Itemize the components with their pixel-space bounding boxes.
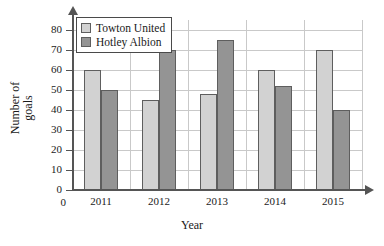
y-axis-tick-mark (66, 90, 73, 91)
bar-2014-series-1 (275, 86, 292, 190)
y-axis-title: Number of goals (9, 53, 35, 163)
bar-2013-series-1 (217, 40, 234, 190)
x-axis-line (72, 189, 368, 191)
x-axis-origin-label: 0 (42, 196, 66, 208)
y-axis-tick-mark (66, 70, 73, 71)
x-axis-tick-label-2014: 2014 (245, 196, 305, 207)
y-axis-title-line2: goals (21, 95, 35, 120)
legend-item-series-0: Towton United (81, 21, 165, 35)
y-axis-tick-label: 0 (18, 184, 62, 195)
y-axis-tick-mark (66, 30, 73, 31)
x-axis-tick-label-2015: 2015 (303, 196, 363, 207)
gridline-vertical (246, 20, 247, 190)
gridline-vertical (188, 20, 189, 190)
x-axis-title: Year (0, 218, 384, 233)
x-axis-tick-label-2012: 2012 (129, 196, 189, 207)
bar-2011-series-0 (84, 70, 101, 190)
legend-item-series-1: Hotley Albion (81, 35, 165, 49)
y-axis-tick-mark (66, 150, 73, 151)
legend-swatch-icon-series-1 (81, 37, 91, 47)
x-axis-tick-label-2013: 2013 (187, 196, 247, 207)
x-axis-arrow-icon (365, 185, 374, 195)
bar-2013-series-0 (200, 94, 217, 190)
bar-chart: 01020304050607080 0 20112012201320142015… (0, 0, 384, 246)
bar-2011-series-1 (101, 90, 118, 190)
y-axis-arrow-icon (68, 6, 78, 15)
bar-2012-series-0 (142, 100, 159, 190)
x-axis-tick-label-2011: 2011 (71, 196, 131, 207)
y-axis-tick-label: 10 (18, 164, 62, 175)
y-axis-tick-mark (66, 110, 73, 111)
bar-2015-series-0 (316, 50, 333, 190)
legend-label-series-1: Hotley Albion (96, 36, 162, 48)
legend-label-series-0: Towton United (96, 22, 165, 34)
y-axis-tick-mark (66, 190, 73, 191)
y-axis-tick-label: 80 (18, 24, 62, 35)
y-axis-title-line1: Number of (8, 82, 22, 134)
gridline-vertical (304, 20, 305, 190)
y-axis-tick-mark (66, 170, 73, 171)
bar-2012-series-1 (159, 50, 176, 190)
bar-2015-series-1 (333, 110, 350, 190)
gridline-vertical (362, 20, 363, 190)
legend: Towton United Hotley Albion (76, 17, 172, 53)
bar-2014-series-0 (258, 70, 275, 190)
y-axis-line (72, 14, 74, 190)
y-axis-tick-mark (66, 130, 73, 131)
legend-swatch-icon-series-0 (81, 23, 91, 33)
y-axis-tick-mark (66, 50, 73, 51)
